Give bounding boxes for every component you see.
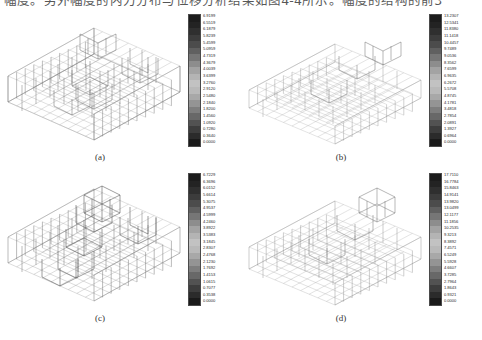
- colorbar-tick-label: 4.1781: [444, 100, 480, 107]
- colorbar-tick-label: 6.3696: [203, 179, 239, 186]
- colorbar-tick-label: 5.0959: [203, 46, 239, 53]
- model-wireframe-c: [2, 173, 187, 309]
- colorbar-tick-label: 7.6599: [444, 66, 480, 73]
- colorbar-swatch: [430, 298, 441, 305]
- colorbar-tick-label: 6.0152: [203, 185, 239, 192]
- colorbar-d: 17.711016.778415.846314.914113.982013.04…: [429, 173, 479, 306]
- colorbar-tick-label: 0.6964: [444, 133, 480, 140]
- colorbar-tick-label: 6.9635: [444, 73, 480, 80]
- colorbar-tick-label: 5.4599: [203, 40, 239, 47]
- colorbar-tick-label: 5.5928: [444, 259, 480, 266]
- colorbar-swatches-c: [188, 173, 201, 306]
- colorbar-tick-label: 4.7319: [203, 53, 239, 60]
- figure-panel-a: 6.91996.55196.18795.82395.45995.09594.73…: [0, 12, 241, 172]
- colorbar-swatches-a: [188, 14, 201, 147]
- colorbar-tick-label: 10.2535: [444, 225, 480, 232]
- figure-panel-b: 13.230712.534111.838011.141810.44579.748…: [241, 12, 482, 172]
- panel-caption-d: (d): [241, 313, 441, 323]
- colorbar-tick-label: 0.9321: [444, 292, 480, 299]
- colorbar-tick-label: 3.5383: [203, 232, 239, 239]
- colorbar-tick-label: 0.7280: [203, 126, 239, 133]
- header-text: 幅度。另外幅度的内力分布与位移分析结果如图4-4所示。幅度的结构的前3: [4, 0, 442, 9]
- colorbar-swatches-b: [429, 14, 442, 147]
- colorbar-tick-label: 2.8307: [203, 245, 239, 252]
- colorbar-swatch: [430, 139, 441, 146]
- frame-model-svg-d: [243, 173, 428, 309]
- colorbar-tick-label: 0.0000: [444, 139, 480, 146]
- colorbar-tick-label: 6.7229: [203, 172, 239, 179]
- colorbar-tick-label: 0.3640: [203, 133, 239, 140]
- colorbar-tick-label: 3.1845: [203, 239, 239, 246]
- colorbar-tick-label: 13.0499: [444, 205, 480, 212]
- colorbar-labels-d: 17.711016.778415.846314.914113.982013.04…: [444, 172, 480, 305]
- colorbar-tick-label: 1.4560: [203, 113, 239, 120]
- model-wireframe-a: [2, 14, 187, 150]
- figure-panel-c: 6.72296.36966.01525.66145.30754.95374.59…: [0, 167, 241, 327]
- colorbar-swatch: [189, 298, 200, 305]
- colorbar-tick-label: 4.2460: [203, 219, 239, 226]
- colorbar-tick-label: 1.3927: [444, 126, 480, 133]
- colorbar-tick-label: 4.0039: [203, 66, 239, 73]
- colorbar-tick-label: 3.8922: [203, 225, 239, 232]
- colorbar-tick-label: 6.9199: [203, 13, 239, 20]
- colorbar-tick-label: 8.3562: [444, 60, 480, 67]
- figure-panel-d: 17.711016.778415.846314.914113.982013.04…: [241, 167, 482, 327]
- colorbar-tick-label: 2.7964: [444, 279, 480, 286]
- colorbar-tick-label: 12.5341: [444, 20, 480, 27]
- panel-caption-a: (a): [0, 152, 200, 162]
- colorbar-tick-label: 14.9141: [444, 192, 480, 199]
- colorbar-tick-label: 1.0615: [203, 279, 239, 286]
- colorbar-tick-label: 13.2307: [444, 13, 480, 20]
- frame-model-svg-a: [2, 14, 187, 150]
- colorbar-tick-label: 1.0920: [203, 120, 239, 127]
- colorbar-tick-label: 11.8380: [444, 26, 480, 33]
- colorbar-tick-label: 0.7077: [203, 285, 239, 292]
- colorbar-tick-label: 6.2672: [444, 80, 480, 87]
- colorbar-tick-label: 2.1230: [203, 259, 239, 266]
- colorbar-tick-label: 7.4571: [444, 245, 480, 252]
- colorbar-tick-label: 2.4768: [203, 252, 239, 259]
- colorbar-tick-label: 5.8239: [203, 33, 239, 40]
- colorbar-tick-label: 9.0536: [444, 53, 480, 60]
- colorbar-tick-label: 1.8643: [444, 285, 480, 292]
- colorbar-tick-label: 0.0000: [444, 298, 480, 305]
- colorbar-tick-label: 4.9537: [203, 205, 239, 212]
- colorbar-tick-label: 17.7110: [444, 172, 480, 179]
- colorbar-tick-label: 16.7784: [444, 179, 480, 186]
- colorbar-tick-label: 6.5519: [203, 20, 239, 27]
- panel-caption-c: (c): [0, 313, 200, 323]
- colorbar-tick-label: 11.1856: [444, 219, 480, 226]
- colorbar-tick-label: 6.1879: [203, 26, 239, 33]
- colorbar-tick-label: 4.6607: [444, 265, 480, 272]
- model-wireframe-d: [243, 173, 428, 309]
- colorbar-swatches-d: [429, 173, 442, 306]
- colorbar-tick-label: 12.1177: [444, 212, 480, 219]
- colorbar-tick-label: 5.6614: [203, 192, 239, 199]
- colorbar-tick-label: 3.2760: [203, 80, 239, 87]
- colorbar-tick-label: 1.7692: [203, 265, 239, 272]
- colorbar-tick-label: 3.7285: [444, 272, 480, 279]
- colorbar-tick-label: 13.9820: [444, 199, 480, 206]
- colorbar-tick-label: 4.3679: [203, 60, 239, 67]
- colorbar-tick-label: 4.8745: [444, 93, 480, 100]
- colorbar-tick-label: 15.8463: [444, 185, 480, 192]
- colorbar-swatch: [189, 139, 200, 146]
- colorbar-tick-label: 1.4153: [203, 272, 239, 279]
- frame-model-svg-c: [2, 173, 187, 309]
- colorbar-tick-label: 2.1840: [203, 100, 239, 107]
- colorbar-b: 13.230712.534111.838011.141810.44579.748…: [429, 14, 479, 147]
- colorbar-tick-label: 6.5249: [444, 252, 480, 259]
- colorbar-c: 6.72296.36966.01525.66145.30754.95374.59…: [188, 173, 238, 306]
- colorbar-tick-label: 9.7489: [444, 46, 480, 53]
- colorbar-tick-label: 11.1418: [444, 33, 480, 40]
- panel-caption-b: (b): [241, 152, 441, 162]
- frame-model-svg-b: [243, 14, 428, 150]
- colorbar-tick-label: 5.5708: [444, 86, 480, 93]
- colorbar-labels-c: 6.72296.36966.01525.66145.30754.95374.59…: [203, 172, 239, 305]
- colorbar-tick-label: 1.8200: [203, 106, 239, 113]
- colorbar-tick-label: 3.4818: [444, 106, 480, 113]
- colorbar-tick-label: 8.3892: [444, 239, 480, 246]
- colorbar-tick-label: 0.0000: [203, 298, 239, 305]
- colorbar-tick-label: 0.3538: [203, 292, 239, 299]
- colorbar-tick-label: 5.3075: [203, 199, 239, 206]
